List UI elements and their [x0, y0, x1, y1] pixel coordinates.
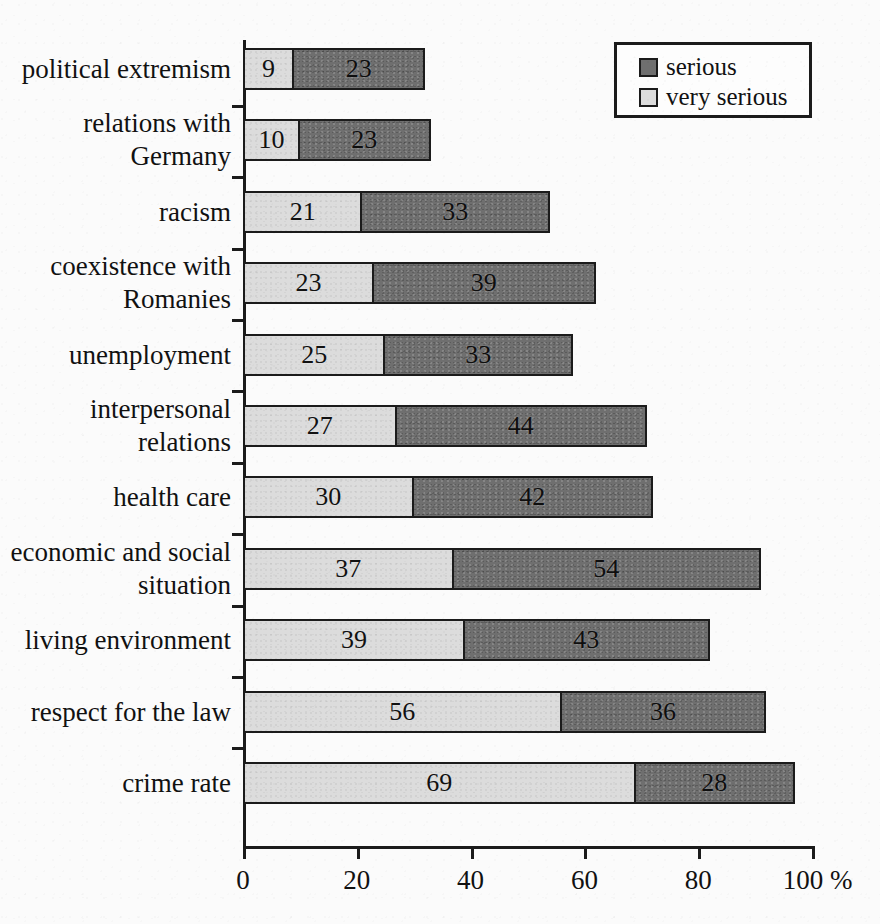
x-axis-tick	[698, 846, 701, 859]
bar-segment-serious: 36	[560, 691, 767, 733]
legend-swatch-very-serious-icon	[639, 88, 658, 107]
stacked-bar-chart: 020406080100 % political extremismrelati…	[0, 0, 880, 924]
bar-value-label: 28	[701, 768, 727, 798]
bar-segment-serious: 42	[412, 476, 653, 518]
category-label: relations with Germany	[83, 107, 231, 173]
bar-segment-very-serious: 30	[243, 476, 414, 518]
bar-value-label: 23	[346, 54, 372, 84]
chart-legend: serious very serious	[614, 42, 812, 118]
category-label: health care	[113, 481, 231, 514]
x-axis-tick	[584, 846, 587, 859]
bar-segment-very-serious: 21	[243, 191, 362, 233]
bar-value-label: 43	[573, 625, 599, 655]
x-axis-line	[243, 846, 814, 849]
x-axis-tick	[357, 846, 360, 859]
y-axis-tick	[232, 462, 244, 465]
legend-label-very-serious: very serious	[666, 83, 788, 111]
legend-item-serious: serious	[639, 52, 809, 82]
bar-value-label: 36	[650, 697, 676, 727]
x-axis-tick-label: 100 %	[783, 864, 853, 896]
x-axis-tick-label: 0	[236, 864, 250, 896]
bar-segment-serious: 23	[292, 48, 425, 90]
bar-value-label: 10	[258, 125, 284, 155]
bar-segment-very-serious: 10	[243, 119, 300, 161]
bar-value-label: 39	[341, 625, 367, 655]
bar-segment-very-serious: 37	[243, 548, 454, 590]
bar-segment-very-serious: 9	[243, 48, 294, 90]
y-axis-tick	[232, 533, 244, 536]
bar-segment-serious: 23	[298, 119, 431, 161]
x-axis-tick	[471, 846, 474, 859]
category-label: living environment	[25, 624, 231, 657]
y-axis-tick	[232, 319, 244, 322]
bar-value-label: 23	[295, 268, 321, 298]
bar-value-label: 54	[593, 554, 619, 584]
bar-segment-very-serious: 69	[243, 762, 636, 804]
bar-value-label: 56	[389, 697, 415, 727]
bar-value-label: 42	[519, 482, 545, 512]
category-label: respect for the law	[31, 695, 231, 728]
bar-segment-serious: 28	[634, 762, 795, 804]
bar-value-label: 27	[307, 411, 333, 441]
bar-value-label: 44	[508, 411, 534, 441]
bar-value-label: 21	[290, 197, 316, 227]
legend-label-serious: serious	[666, 53, 737, 81]
category-label: unemployment	[69, 338, 231, 371]
bar-segment-very-serious: 23	[243, 262, 374, 304]
x-axis-tick-label: 20	[343, 864, 370, 896]
category-label: political extremism	[22, 53, 231, 86]
y-axis-tick	[232, 676, 244, 679]
bar-value-label: 33	[442, 197, 468, 227]
bar-segment-serious: 44	[395, 405, 647, 447]
bar-value-label: 33	[465, 340, 491, 370]
bar-value-label: 30	[315, 482, 341, 512]
bar-segment-serious: 33	[383, 334, 573, 376]
legend-swatch-serious-icon	[639, 58, 658, 77]
bar-value-label: 37	[335, 554, 361, 584]
category-label: interpersonal relations	[90, 393, 231, 459]
category-label: racism	[159, 195, 231, 228]
y-axis-tick	[232, 390, 244, 393]
x-axis-tick-label: 40	[457, 864, 484, 896]
bar-value-label: 9	[262, 54, 275, 84]
y-axis-tick	[232, 176, 244, 179]
x-axis-tick	[812, 846, 815, 859]
bar-value-label: 69	[426, 768, 452, 798]
bar-value-label: 39	[471, 268, 497, 298]
bar-value-label: 25	[301, 340, 327, 370]
bar-segment-serious: 54	[452, 548, 761, 590]
bar-segment-very-serious: 56	[243, 691, 562, 733]
bar-segment-very-serious: 27	[243, 405, 397, 447]
legend-item-very-serious: very serious	[639, 82, 809, 112]
category-label: economic and social situation	[11, 536, 231, 602]
bar-segment-serious: 33	[360, 191, 550, 233]
x-axis-tick-label: 60	[571, 864, 598, 896]
bar-segment-very-serious: 39	[243, 619, 465, 661]
x-axis-tick-label: 80	[685, 864, 712, 896]
y-axis-tick	[232, 747, 244, 750]
x-axis-tick	[243, 846, 246, 859]
category-label: coexistence with Romanies	[50, 250, 231, 316]
bar-segment-serious: 43	[463, 619, 710, 661]
bar-value-label: 23	[351, 125, 377, 155]
y-axis-tick	[232, 605, 244, 608]
bar-segment-very-serious: 25	[243, 334, 385, 376]
y-axis-tick	[232, 105, 244, 108]
y-axis-tick	[232, 248, 244, 251]
category-label: crime rate	[122, 767, 231, 800]
bar-segment-serious: 39	[372, 262, 596, 304]
